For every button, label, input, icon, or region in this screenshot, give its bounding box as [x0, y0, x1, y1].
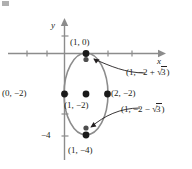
- label-lower-focus-prefix: (1, −2 −: [121, 104, 152, 114]
- y-tick-label--4: −4: [41, 131, 51, 140]
- point-upper-focus: [83, 57, 88, 62]
- point-left-covertex: [61, 91, 68, 98]
- point-lower-focus: [83, 125, 88, 130]
- point-center: [83, 91, 90, 98]
- label-center: (1, −2): [64, 101, 89, 110]
- label-right-covertex: (2, −2): [111, 89, 136, 98]
- point-top-vertex: [83, 50, 90, 57]
- label-upper-focus-suffix: ): [167, 67, 170, 77]
- label-top-vertex: (1, 0): [70, 38, 90, 47]
- label-bottom-vertex: (1, −4): [68, 146, 93, 155]
- point-bottom-vertex: [83, 132, 90, 139]
- label-upper-focus-prefix: (1, −2 +: [126, 67, 157, 77]
- label-left-covertex: (0, −2): [2, 89, 27, 98]
- y-axis-label: y: [51, 21, 55, 30]
- label-lower-focus: (1, −2 − √3): [121, 105, 165, 114]
- ellipse-graph-figure: y x −4 (1, 0) (0, −2) (2, −2) (1, −2) (1…: [0, 0, 192, 169]
- x-axis-label: x: [157, 57, 161, 66]
- label-upper-focus: (1, −2 + √3): [126, 68, 170, 77]
- label-lower-focus-suffix: ): [162, 104, 165, 114]
- point-right-covertex: [104, 91, 111, 98]
- graph-canvas: [0, 0, 192, 169]
